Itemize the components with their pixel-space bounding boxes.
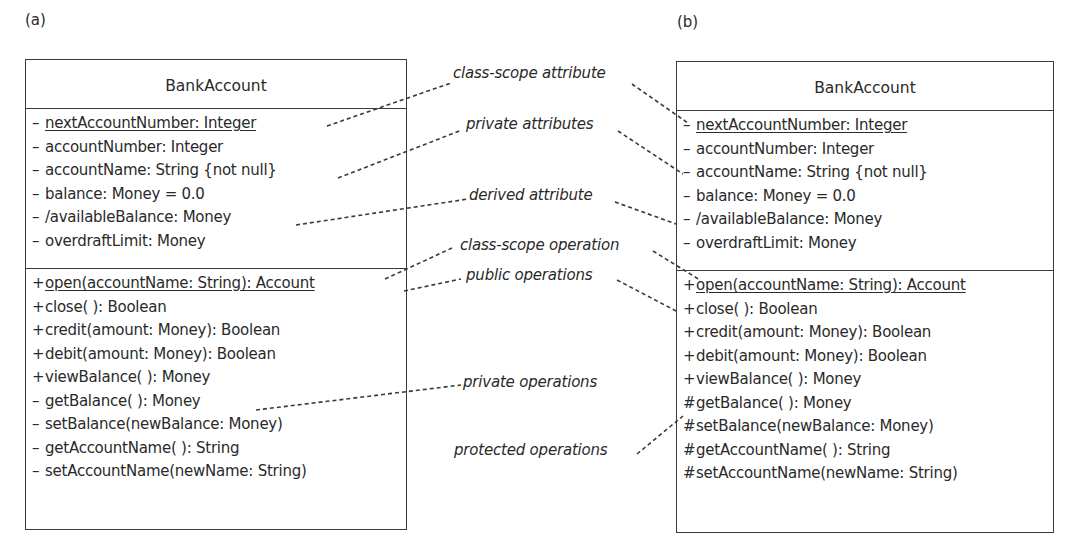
member-signature: balance: Money = 0.0 bbox=[696, 187, 856, 205]
operation-row: #getBalance( ): Money bbox=[683, 392, 1053, 416]
visibility-marker: – bbox=[32, 136, 45, 160]
operation-row: +open(accountName: String): Account bbox=[32, 272, 406, 296]
visibility-marker: # bbox=[683, 415, 696, 439]
operation-row: +credit(amount: Money): Boolean bbox=[683, 321, 1053, 345]
visibility-marker: – bbox=[683, 208, 696, 232]
leader-derived-attribute-right bbox=[615, 202, 676, 224]
attributes-compartment-a: –nextAccountNumber: Integer–accountNumbe… bbox=[26, 109, 406, 269]
visibility-marker: # bbox=[683, 392, 696, 416]
visibility-marker: + bbox=[683, 321, 696, 345]
class-name-b: BankAccount bbox=[677, 62, 1053, 111]
visibility-marker: + bbox=[683, 345, 696, 369]
member-signature: viewBalance( ): Money bbox=[696, 370, 861, 388]
visibility-marker: – bbox=[32, 230, 45, 254]
operation-row: –setAccountName(newName: String) bbox=[32, 460, 406, 484]
member-signature: credit(amount: Money): Boolean bbox=[45, 321, 280, 339]
member-signature: nextAccountNumber: Integer bbox=[45, 114, 256, 132]
visibility-marker: # bbox=[683, 439, 696, 463]
visibility-marker: + bbox=[32, 319, 45, 343]
attribute-row: –accountNumber: Integer bbox=[683, 138, 1053, 162]
operation-row: #setAccountName(newName: String) bbox=[683, 462, 1053, 486]
operation-row: +viewBalance( ): Money bbox=[683, 368, 1053, 392]
annotation-private-operations: private operations bbox=[463, 373, 597, 391]
visibility-marker: – bbox=[683, 232, 696, 256]
annotation-private-attributes: private attributes bbox=[466, 115, 593, 133]
operation-row: +debit(amount: Money): Boolean bbox=[683, 345, 1053, 369]
member-signature: viewBalance( ): Money bbox=[45, 368, 210, 386]
member-signature: overdraftLimit: Money bbox=[45, 232, 205, 250]
attribute-row: –accountName: String {not null} bbox=[683, 161, 1053, 185]
attribute-row: –overdraftLimit: Money bbox=[32, 230, 406, 254]
member-signature: setAccountName(newName: String) bbox=[45, 462, 307, 480]
member-signature: open(accountName: String): Account bbox=[45, 274, 315, 292]
operations-compartment-b: +open(accountName: String): Account+clos… bbox=[677, 271, 1053, 486]
member-signature: getAccountName( ): String bbox=[696, 441, 890, 459]
visibility-marker: – bbox=[683, 161, 696, 185]
member-signature: accountName: String {not null} bbox=[696, 163, 928, 181]
visibility-marker: + bbox=[683, 298, 696, 322]
attribute-row: –overdraftLimit: Money bbox=[683, 232, 1053, 256]
attributes-compartment-b: –nextAccountNumber: Integer–accountNumbe… bbox=[677, 111, 1053, 271]
operation-row: #setBalance(newBalance: Money) bbox=[683, 415, 1053, 439]
operations-compartment-a: +open(accountName: String): Account+clos… bbox=[26, 269, 406, 484]
visibility-marker: + bbox=[32, 296, 45, 320]
member-signature: nextAccountNumber: Integer bbox=[696, 116, 907, 134]
operation-row: +close( ): Boolean bbox=[32, 296, 406, 320]
operation-row: #getAccountName( ): String bbox=[683, 439, 1053, 463]
operation-row: –getBalance( ): Money bbox=[32, 390, 406, 414]
member-signature: /availableBalance: Money bbox=[45, 208, 231, 226]
visibility-marker: + bbox=[32, 272, 45, 296]
visibility-marker: – bbox=[683, 114, 696, 138]
attribute-row: –/availableBalance: Money bbox=[32, 206, 406, 230]
attribute-row: –/availableBalance: Money bbox=[683, 208, 1053, 232]
member-signature: credit(amount: Money): Boolean bbox=[696, 323, 931, 341]
annotation-class-scope-attribute: class-scope attribute bbox=[453, 64, 606, 82]
class-box-b: BankAccount –nextAccountNumber: Integer–… bbox=[676, 61, 1054, 533]
leader-public-operations-left bbox=[404, 279, 461, 291]
attribute-row: –accountName: String {not null} bbox=[32, 159, 406, 183]
member-signature: balance: Money = 0.0 bbox=[45, 185, 205, 203]
annotation-derived-attribute: derived attribute bbox=[469, 186, 593, 204]
visibility-marker: – bbox=[32, 112, 45, 136]
operation-row: +close( ): Boolean bbox=[683, 298, 1053, 322]
member-signature: setAccountName(newName: String) bbox=[696, 464, 958, 482]
member-signature: accountNumber: Integer bbox=[696, 140, 874, 158]
member-signature: /availableBalance: Money bbox=[696, 210, 882, 228]
visibility-marker: – bbox=[683, 138, 696, 162]
annotation-protected-operations: protected operations bbox=[454, 441, 607, 459]
member-signature: getBalance( ): Money bbox=[45, 392, 200, 410]
panel-label-b: (b) bbox=[677, 13, 698, 31]
visibility-marker: + bbox=[32, 366, 45, 390]
leader-private-attributes-right bbox=[618, 131, 683, 174]
member-signature: open(accountName: String): Account bbox=[696, 276, 966, 294]
member-signature: debit(amount: Money): Boolean bbox=[696, 347, 927, 365]
visibility-marker: + bbox=[683, 274, 696, 298]
visibility-marker: – bbox=[683, 185, 696, 209]
operation-row: –getAccountName( ): String bbox=[32, 437, 406, 461]
visibility-marker: – bbox=[32, 437, 45, 461]
attribute-row: –nextAccountNumber: Integer bbox=[32, 112, 406, 136]
class-name-a: BankAccount bbox=[26, 60, 406, 109]
visibility-marker: – bbox=[32, 390, 45, 414]
visibility-marker: + bbox=[683, 368, 696, 392]
attribute-row: –balance: Money = 0.0 bbox=[32, 183, 406, 207]
visibility-marker: – bbox=[32, 460, 45, 484]
attribute-row: –accountNumber: Integer bbox=[32, 136, 406, 160]
member-signature: getBalance( ): Money bbox=[696, 394, 851, 412]
member-signature: accountName: String {not null} bbox=[45, 161, 277, 179]
visibility-marker: – bbox=[32, 413, 45, 437]
visibility-marker: – bbox=[32, 206, 45, 230]
operation-row: +open(accountName: String): Account bbox=[683, 274, 1053, 298]
member-signature: close( ): Boolean bbox=[696, 300, 817, 318]
leader-public-operations-right bbox=[617, 280, 676, 311]
attribute-row: –balance: Money = 0.0 bbox=[683, 185, 1053, 209]
operation-row: +viewBalance( ): Money bbox=[32, 366, 406, 390]
member-signature: setBalance(newBalance: Money) bbox=[696, 417, 934, 435]
member-signature: overdraftLimit: Money bbox=[696, 234, 856, 252]
visibility-marker: – bbox=[32, 183, 45, 207]
annotation-public-operations: public operations bbox=[466, 266, 592, 284]
member-signature: close( ): Boolean bbox=[45, 298, 166, 316]
member-signature: getAccountName( ): String bbox=[45, 439, 239, 457]
annotation-class-scope-operation: class-scope operation bbox=[460, 236, 619, 254]
panel-label-a: (a) bbox=[25, 11, 46, 29]
